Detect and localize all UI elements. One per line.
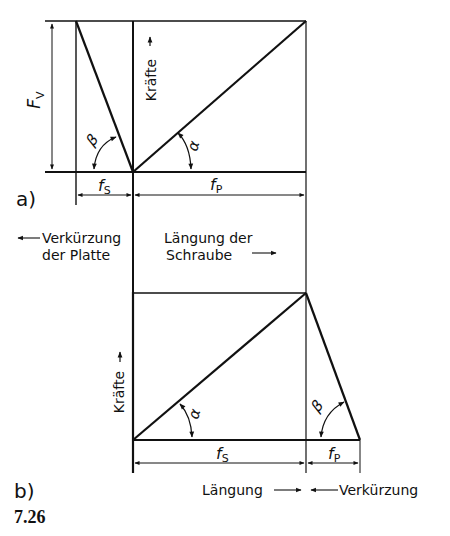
fp-label-b: fP <box>328 444 341 465</box>
panel-b-label: b) <box>14 479 35 503</box>
angle-alpha-label-b: α <box>184 407 204 421</box>
bolted-joint-diagram: FV Kräfte β α fS fP a) Verkürzung der Pl… <box>0 0 450 536</box>
shortening-caption: Verkürzung <box>339 482 418 498</box>
plate-caption-line1: Verkürzung <box>42 230 121 246</box>
preload-label: FV <box>24 91 47 109</box>
angle-alpha-arc <box>178 133 191 169</box>
plate-caption-line2: der Platte <box>42 247 110 263</box>
force-axis-label: Kräfte <box>143 59 159 101</box>
bolt-line-b <box>133 293 306 440</box>
plate-stiffness-line <box>76 21 133 172</box>
figure-number: 7.26 <box>14 507 46 527</box>
fs-label: fS <box>98 176 111 197</box>
fp-label: fP <box>210 175 223 196</box>
angle-alpha-label: α <box>183 139 203 153</box>
force-axis-label-b: Kräfte <box>111 371 127 413</box>
plate-line-b <box>306 293 360 440</box>
panel-b: Kräfte α β fS fP b) Längung Verkürzung <box>14 292 418 503</box>
bolt-caption-line1: Längung der <box>164 230 253 246</box>
panel-a: FV Kräfte β α fS fP a) Verkürzung der Pl… <box>16 21 306 292</box>
bolt-caption-line2: Schraube <box>166 247 232 263</box>
angle-beta-label: β <box>82 130 103 150</box>
angle-beta-label-b: β <box>307 396 328 416</box>
panel-a-label: a) <box>16 187 36 211</box>
elongation-caption: Längung <box>202 482 263 498</box>
fs-label-b: fS <box>216 444 229 465</box>
